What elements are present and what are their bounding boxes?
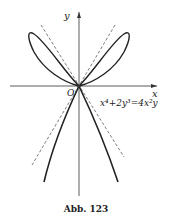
y-axis-arrow-icon [77,12,81,18]
curve-plot [0,0,172,217]
asymptote-left-to-right [41,25,124,157]
figure: y x O x⁴+2y³=4x²y Abb. 123 [0,0,172,217]
figure-caption: Abb. 123 [0,204,172,214]
y-axis-label: y [64,10,70,21]
origin-label: O [67,88,74,98]
left-loop [29,33,79,86]
left-branch [44,86,79,182]
equation-label: x⁴+2y³=4x²y [100,98,158,108]
right-loop [79,33,129,86]
